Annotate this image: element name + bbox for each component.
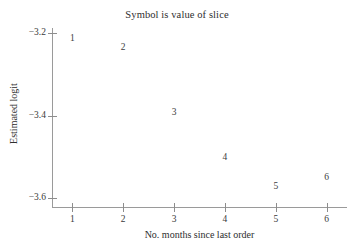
chart-title: Symbol is value of slice [0,9,354,20]
x-axis-title: No. months since last order [52,229,347,240]
y-axis-tick [48,116,57,117]
x-axis-tick-label: 5 [264,214,288,224]
scatter-plot-figure: Symbol is value of slice 123456 −3.2−3.4… [0,0,354,251]
y-axis-tick [48,198,57,199]
y-axis-tick [48,33,57,34]
x-axis-tick [327,203,328,212]
data-point-symbol: 2 [113,42,133,52]
x-axis-tick [225,203,226,212]
y-axis-title: Estimated logit [8,54,19,174]
data-point-symbol: 1 [62,33,82,43]
data-point-symbol: 5 [266,181,286,191]
x-axis-tick-label: 1 [60,214,84,224]
x-axis-tick-label: 6 [315,214,339,224]
x-axis-tick [72,203,73,212]
data-point-symbol: 4 [215,152,235,162]
y-axis-tick-label: −3.6 [0,192,46,202]
x-axis-tick [174,203,175,212]
y-axis-tick-label: −3.2 [0,27,46,37]
y-axis-line [52,28,53,208]
data-point-symbol: 3 [164,107,184,117]
x-axis-tick [276,203,277,212]
x-axis-tick [123,203,124,212]
x-axis-tick-label: 2 [111,214,135,224]
x-axis-line [52,207,347,208]
x-axis-tick-label: 4 [213,214,237,224]
data-point-symbol: 6 [317,172,337,182]
x-axis-tick-label: 3 [162,214,186,224]
